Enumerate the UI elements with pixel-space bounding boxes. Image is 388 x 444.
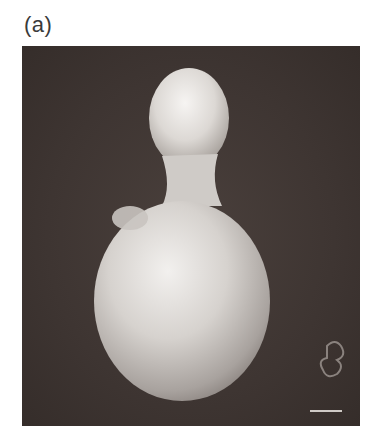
panel-label: (a) (24, 12, 52, 38)
scale-bar (310, 410, 342, 412)
yeast-cell-illustration (22, 46, 360, 426)
sem-image (22, 46, 360, 426)
